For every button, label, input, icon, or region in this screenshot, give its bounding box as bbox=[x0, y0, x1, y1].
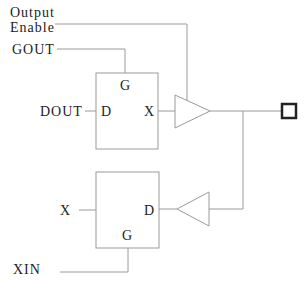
x-label: X bbox=[60, 203, 71, 218]
input-latch-d-label: D bbox=[144, 203, 155, 218]
xin-wire bbox=[60, 248, 128, 272]
output-latch-g-label: G bbox=[120, 78, 131, 93]
input-buffer-icon bbox=[177, 192, 209, 226]
io-cell-diagram: Output Enable GOUT DOUT X XIN G D X D G bbox=[0, 0, 305, 281]
dout-label: DOUT bbox=[40, 104, 83, 119]
output-enable-label-1: Output bbox=[10, 5, 55, 20]
io-pad-icon bbox=[282, 104, 296, 118]
output-enable-label-2: Enable bbox=[10, 20, 55, 35]
input-latch-g-label: G bbox=[122, 228, 133, 243]
xin-label: XIN bbox=[13, 262, 41, 277]
gout-label: GOUT bbox=[12, 42, 55, 57]
output-latch-d-label: D bbox=[101, 104, 112, 119]
output-buffer-icon bbox=[175, 95, 210, 128]
feedback-wire bbox=[209, 111, 243, 209]
output-latch-x-label: X bbox=[144, 104, 155, 119]
gout-wire bbox=[57, 49, 125, 73]
